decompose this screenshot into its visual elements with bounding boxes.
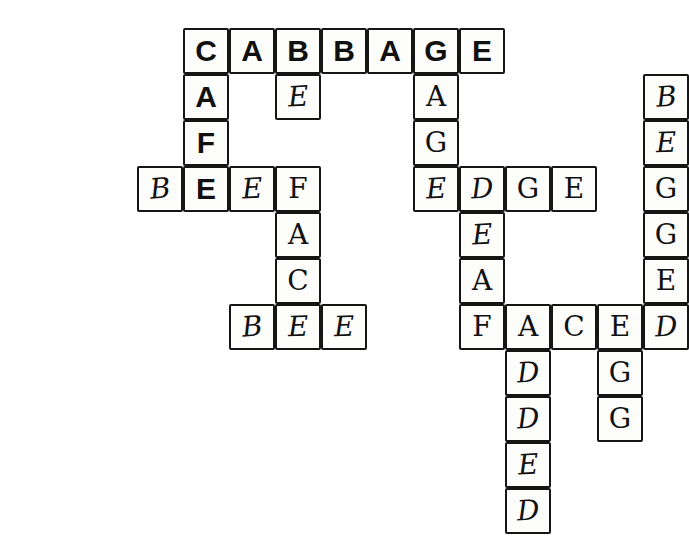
cell-letter: E — [517, 450, 539, 479]
cell-letter: D — [654, 312, 678, 341]
cell-letter: E — [425, 174, 447, 203]
crossword-cell[interactable]: D — [505, 488, 551, 534]
crossword-cell[interactable]: B — [137, 166, 183, 212]
cell-letter: B — [149, 174, 172, 204]
cell-letter: E — [196, 174, 216, 204]
cell-letter: D — [516, 404, 540, 433]
crossword-cell[interactable]: E — [459, 212, 505, 258]
crossword-cell[interactable]: A — [413, 74, 459, 120]
cell-letter: E — [564, 175, 584, 203]
cell-letter: A — [241, 36, 263, 66]
cell-letter: A — [195, 82, 217, 112]
crossword-cell[interactable]: E — [551, 166, 597, 212]
cell-letter: E — [333, 313, 354, 342]
cell-letter: D — [516, 358, 540, 387]
crossword-cell[interactable]: A — [505, 304, 551, 350]
cell-letter: E — [287, 82, 309, 111]
cell-letter: G — [655, 175, 677, 203]
cell-letter: C — [563, 313, 584, 341]
crossword-cell[interactable]: A — [459, 258, 505, 304]
cell-letter: E — [610, 313, 630, 341]
crossword-cell[interactable]: B — [229, 304, 275, 350]
crossword-cell[interactable]: D — [505, 350, 551, 396]
crossword-cell[interactable]: B — [275, 28, 321, 74]
cell-letter: E — [656, 267, 676, 295]
cell-letter: A — [518, 313, 538, 341]
cell-letter: A — [379, 36, 401, 66]
cell-letter: E — [472, 36, 492, 66]
cell-letter: B — [287, 36, 309, 66]
crossword-cell[interactable]: G — [413, 28, 459, 74]
crossword-cell[interactable]: G — [597, 350, 643, 396]
cell-letter: F — [288, 175, 307, 203]
cell-letter: F — [197, 128, 215, 158]
crossword-cell[interactable]: F — [459, 304, 505, 350]
cell-letter: E — [287, 313, 308, 342]
crossword-cell[interactable]: E — [229, 166, 275, 212]
crossword-cell[interactable]: E — [459, 28, 505, 74]
cell-letter: A — [472, 267, 492, 295]
crossword-cell[interactable]: A — [229, 28, 275, 74]
crossword-cell[interactable]: A — [367, 28, 413, 74]
cell-letter: G — [425, 129, 447, 157]
cell-letter: E — [655, 129, 676, 158]
cell-letter: C — [287, 267, 308, 295]
crossword-cell[interactable]: E — [275, 74, 321, 120]
cell-letter: E — [471, 220, 493, 249]
cell-letter: D — [470, 174, 494, 203]
crossword-cell[interactable]: G — [597, 396, 643, 442]
crossword-cell[interactable]: B — [643, 74, 689, 120]
cell-letter: D — [516, 496, 540, 525]
crossword-cell[interactable]: G — [643, 212, 689, 258]
crossword-cell[interactable]: E — [505, 442, 551, 488]
crossword-cell[interactable]: E — [643, 258, 689, 304]
crossword-cell[interactable]: C — [275, 258, 321, 304]
cell-letter: B — [241, 312, 264, 342]
cell-letter: A — [288, 221, 308, 249]
crossword-cell[interactable]: A — [183, 74, 229, 120]
cell-letter: E — [241, 174, 263, 203]
crossword-cell[interactable]: F — [183, 120, 229, 166]
crossword-cell[interactable]: E — [275, 304, 321, 350]
crossword-cell[interactable]: F — [275, 166, 321, 212]
crossword-cell[interactable]: E — [643, 120, 689, 166]
cell-letter: G — [609, 359, 631, 387]
cell-letter: G — [517, 175, 539, 203]
crossword-cell[interactable]: G — [643, 166, 689, 212]
crossword-cell[interactable]: G — [413, 120, 459, 166]
crossword-cell[interactable]: E — [597, 304, 643, 350]
cell-letter: B — [655, 82, 677, 111]
crossword-cell[interactable]: E — [183, 166, 229, 212]
crossword-cell[interactable]: D — [459, 166, 505, 212]
crossword-cell[interactable]: E — [413, 166, 459, 212]
cell-letter: B — [333, 36, 355, 66]
cell-letter: F — [472, 313, 491, 341]
crossword-cell[interactable]: C — [551, 304, 597, 350]
cell-letter: G — [609, 405, 631, 433]
cell-letter: C — [195, 36, 217, 66]
cell-letter: G — [424, 36, 447, 66]
crossword-cell[interactable]: C — [183, 28, 229, 74]
crossword-cell[interactable]: D — [643, 304, 689, 350]
crossword-cell[interactable]: D — [505, 396, 551, 442]
cell-letter: A — [426, 83, 446, 111]
cell-letter: G — [655, 221, 677, 249]
crossword-cell[interactable]: E — [321, 304, 367, 350]
crossword-cell[interactable]: A — [275, 212, 321, 258]
crossword-cell[interactable]: G — [505, 166, 551, 212]
crossword-cell[interactable]: B — [321, 28, 367, 74]
